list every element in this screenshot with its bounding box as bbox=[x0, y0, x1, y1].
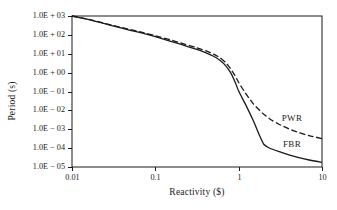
y-axis-title: Period (s) bbox=[7, 65, 17, 137]
x-tick-label: 10 bbox=[303, 173, 337, 182]
y-tick-label: 1.0E + 00 bbox=[19, 68, 65, 77]
y-tick-label: 1.0E + 02 bbox=[19, 30, 65, 39]
y-axis-ticks bbox=[68, 17, 72, 168]
series-label-fbr: FBR bbox=[283, 139, 301, 149]
chart-container: Period (s) Reactivity ($) 1.0E + 031.0E … bbox=[0, 0, 337, 210]
x-axis-ticks bbox=[73, 167, 323, 171]
x-tick-label: 0.1 bbox=[136, 173, 176, 182]
series-label-pwr: PWR bbox=[282, 113, 303, 123]
x-axis-title: Reactivity ($) bbox=[72, 187, 322, 197]
x-tick-label: 1 bbox=[220, 173, 260, 182]
y-tick-label: 1.0E + 01 bbox=[19, 49, 65, 58]
y-tick-label: 1.0E − 01 bbox=[19, 87, 65, 96]
y-tick-label: 1.0E − 04 bbox=[19, 143, 65, 152]
y-tick-label: 1.0E − 02 bbox=[19, 105, 65, 114]
y-tick-label: 1.0E + 03 bbox=[19, 11, 65, 20]
x-tick-label: 0.01 bbox=[53, 173, 93, 182]
y-tick-label: 1.0E − 05 bbox=[19, 162, 65, 171]
y-tick-label: 1.0E − 03 bbox=[19, 124, 65, 133]
